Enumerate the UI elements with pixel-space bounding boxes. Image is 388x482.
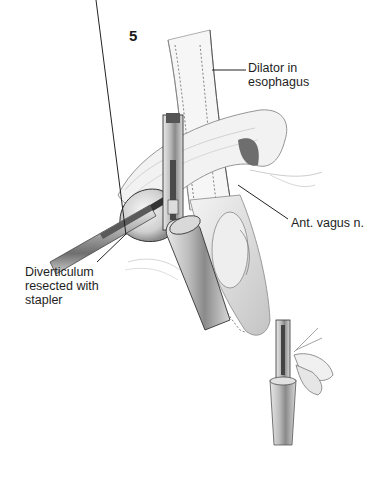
- label-line: stapler: [25, 293, 99, 307]
- label-diverticulum: Diverticulum resected with stapler: [25, 265, 99, 307]
- diverticulum-leader-line: [96, 0, 126, 235]
- label-dilator-in-esophagus: Dilator in esophagus: [248, 61, 309, 89]
- label-line: esophagus: [248, 75, 309, 89]
- label-line: resected with: [25, 279, 99, 293]
- label-line: Dilator in: [248, 61, 309, 75]
- lower-grasper: [270, 320, 333, 445]
- label-ant-vagus-nerve: Ant. vagus n.: [291, 216, 364, 230]
- label-line: Diverticulum: [25, 265, 99, 279]
- surgical-illustration: [0, 0, 388, 482]
- stapler: [163, 113, 183, 230]
- figure-number: 5: [129, 27, 137, 44]
